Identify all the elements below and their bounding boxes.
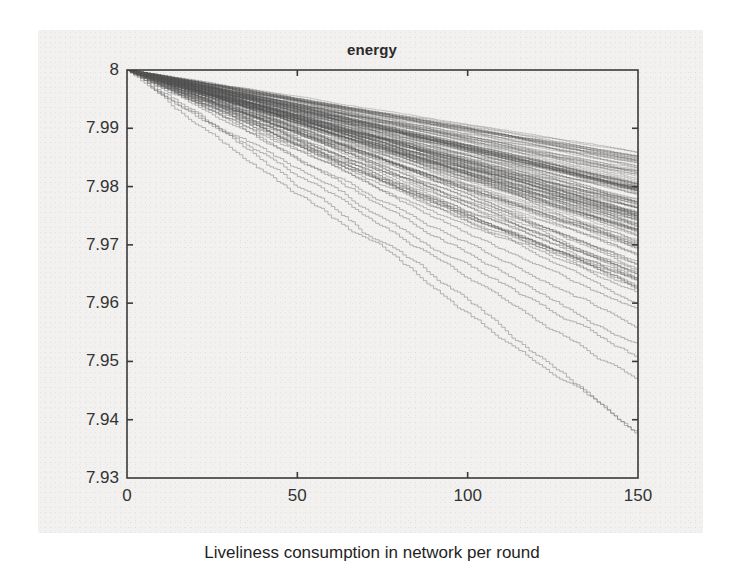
figure-root: energy 7.937.947.957.967.977.987.998 050… — [0, 0, 744, 576]
x-tick-label: 150 — [624, 486, 652, 506]
y-tick-label: 7.98 — [38, 177, 119, 197]
y-tick-label: 7.93 — [38, 468, 119, 488]
y-tick-label: 7.94 — [38, 410, 119, 430]
y-tick-label: 8 — [38, 60, 119, 80]
y-tick-label: 7.96 — [38, 293, 119, 313]
y-tick-label: 7.95 — [38, 351, 119, 371]
figure-caption: Liveliness consumption in network per ro… — [0, 543, 744, 563]
series-layer — [127, 70, 638, 434]
y-tick-label: 7.97 — [38, 235, 119, 255]
series-line — [127, 70, 638, 303]
x-tick-label: 100 — [453, 486, 481, 506]
x-tick-label: 0 — [122, 486, 131, 506]
y-tick-label: 7.99 — [38, 118, 119, 138]
x-tick-label: 50 — [288, 486, 307, 506]
